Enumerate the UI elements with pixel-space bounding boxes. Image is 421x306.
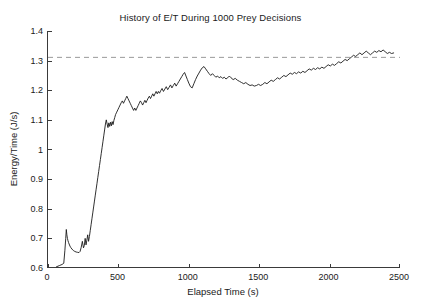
y-tick-label: 0.6 — [30, 263, 43, 273]
y-tick-label: 1 — [38, 145, 43, 155]
x-tick-label: 2000 — [319, 272, 339, 282]
plot-svg — [48, 31, 400, 268]
y-tick-label: 0.8 — [30, 204, 43, 214]
y-tick-label: 1.2 — [30, 85, 43, 95]
y-tick-label: 1.3 — [30, 56, 43, 66]
x-axis-tick-marks — [49, 264, 400, 268]
figure-container: History of E/T During 1000 Prey Decision… — [0, 0, 421, 306]
y-axis-tick-labels: 0.60.70.80.911.11.21.31.4 — [0, 31, 43, 268]
y-tick-label: 0.7 — [30, 233, 43, 243]
x-tick-label: 0 — [44, 272, 49, 282]
x-tick-label: 1500 — [248, 272, 268, 282]
x-tick-label: 1000 — [178, 272, 198, 282]
y-tick-label: 1.1 — [30, 115, 43, 125]
x-axis-tick-labels: 05001000150020002500 — [47, 272, 399, 286]
chart-title: History of E/T During 1000 Prey Decision… — [0, 12, 421, 23]
energy-time-series-line — [56, 50, 393, 267]
plot-area — [47, 31, 399, 268]
y-axis-tick-marks — [48, 32, 52, 269]
y-tick-label: 1.4 — [30, 26, 43, 36]
x-tick-label: 500 — [110, 272, 125, 282]
y-tick-label: 0.9 — [30, 174, 43, 184]
x-tick-label: 2500 — [389, 272, 409, 282]
x-axis-label: Elapsed Time (s) — [47, 286, 399, 297]
